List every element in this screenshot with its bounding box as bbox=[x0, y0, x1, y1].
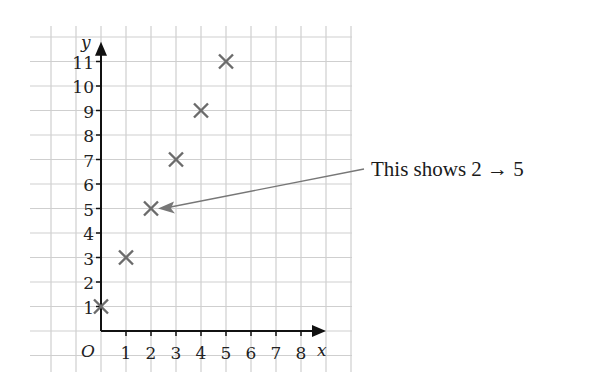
svg-text:5: 5 bbox=[83, 200, 94, 220]
svg-text:4: 4 bbox=[83, 224, 94, 244]
svg-text:8: 8 bbox=[83, 126, 94, 146]
svg-text:10: 10 bbox=[72, 77, 94, 97]
svg-text:2: 2 bbox=[146, 343, 157, 363]
svg-text:8: 8 bbox=[296, 343, 307, 363]
svg-text:x: x bbox=[317, 340, 327, 360]
mapping-graph: 123456781234567891011Oxy bbox=[0, 0, 598, 387]
svg-text:6: 6 bbox=[83, 175, 94, 195]
svg-text:1: 1 bbox=[83, 298, 94, 318]
annotation-label: This shows 2 → 5 bbox=[371, 157, 524, 182]
svg-text:7: 7 bbox=[83, 151, 94, 171]
svg-text:2: 2 bbox=[83, 273, 94, 293]
svg-text:O: O bbox=[81, 341, 95, 361]
svg-text:3: 3 bbox=[83, 249, 94, 269]
tick-labels: 123456781234567891011Oxy bbox=[72, 32, 327, 363]
svg-text:4: 4 bbox=[196, 343, 207, 363]
svg-text:5: 5 bbox=[221, 343, 232, 363]
svg-text:7: 7 bbox=[271, 343, 282, 363]
svg-text:9: 9 bbox=[83, 102, 94, 122]
svg-text:1: 1 bbox=[121, 343, 132, 363]
svg-text:y: y bbox=[80, 32, 91, 52]
svg-text:11: 11 bbox=[72, 53, 94, 73]
annotation-arrow bbox=[158, 169, 364, 214]
svg-text:3: 3 bbox=[171, 343, 182, 363]
svg-text:6: 6 bbox=[246, 343, 257, 363]
